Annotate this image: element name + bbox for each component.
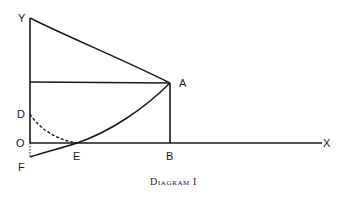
label-a: A — [179, 77, 187, 89]
label-o: O — [16, 137, 25, 149]
label-e: E — [73, 150, 80, 162]
rising-curve — [30, 83, 170, 157]
dashed-curve — [30, 114, 77, 143]
diagram-caption: Diagram I — [0, 176, 347, 187]
label-f: F — [18, 161, 25, 173]
label-y: Y — [18, 12, 26, 24]
label-b: B — [166, 150, 173, 162]
label-d: D — [17, 108, 25, 120]
upper-curve — [30, 18, 170, 83]
diagram: Y A D O E B X F — [0, 0, 347, 197]
label-x: X — [323, 137, 331, 149]
horizontal-line-a — [30, 82, 170, 83]
